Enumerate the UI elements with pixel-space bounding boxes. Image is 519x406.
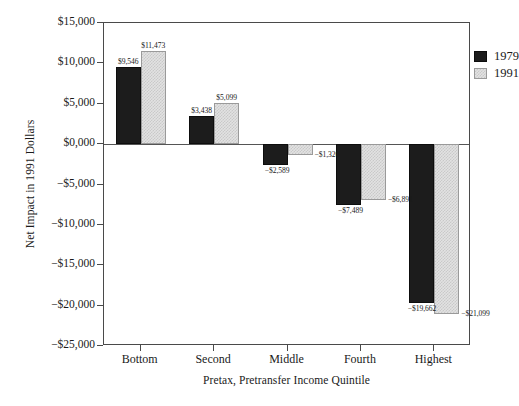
- y-tick-label: −$5,000: [0, 177, 95, 189]
- y-tick-label: −$15,000: [0, 257, 95, 269]
- bar-second-1979: [189, 116, 214, 144]
- bar-bottom-1979: [116, 67, 141, 144]
- y-tick-mark: [97, 345, 103, 346]
- value-label-middle-1979: −$2,589: [230, 166, 290, 175]
- x-tick-mark: [433, 345, 434, 351]
- bar-fourth-1991: [361, 144, 386, 200]
- value-label-bottom-1979: $9,546: [98, 57, 158, 66]
- legend-swatch-1979: [474, 51, 487, 62]
- x-tick-label-highest: Highest: [388, 352, 478, 367]
- legend-label-1991: 1991: [494, 67, 519, 80]
- plot-area: $9,546$11,473$3,438$5,099−$2,589−$1,320−…: [103, 22, 470, 345]
- x-tick-mark: [140, 345, 141, 351]
- x-tick-mark: [360, 345, 361, 351]
- value-label-fourth-1991: −$6,891: [388, 195, 413, 204]
- legend-item-1979: 1979: [474, 49, 519, 64]
- value-label-second-1991: $5,099: [197, 93, 257, 102]
- value-label-middle-1991: −$1,320: [315, 150, 340, 159]
- y-tick-label: −$20,000: [0, 298, 95, 310]
- y-tick-label: $10,000: [0, 55, 95, 67]
- value-label-highest-1979: −$19,662: [376, 304, 436, 313]
- legend-swatch-1991: [474, 68, 487, 79]
- value-label-fourth-1979: −$7,489: [303, 206, 363, 215]
- value-label-bottom-1991: $11,473: [123, 41, 183, 50]
- x-tick-mark: [287, 345, 288, 351]
- bar-fourth-1979: [336, 144, 361, 204]
- value-label-second-1979: $3,438: [172, 106, 232, 115]
- x-tick-mark: [213, 345, 214, 351]
- value-label-highest-1991: −$21,099: [461, 309, 490, 318]
- bar-highest-1979: [409, 144, 434, 303]
- bar-middle-1991: [288, 144, 313, 155]
- y-tick-label: −$10,000: [0, 217, 95, 229]
- legend: 1979 1991: [474, 49, 519, 83]
- y-tick-label: $0,000: [0, 136, 95, 148]
- legend-label-1979: 1979: [494, 50, 519, 63]
- y-tick-label: −$25,000: [0, 338, 95, 350]
- bar-middle-1979: [263, 144, 288, 165]
- bar-highest-1991: [434, 144, 459, 314]
- legend-item-1991: 1991: [474, 66, 519, 81]
- y-tick-label: $5,000: [0, 96, 95, 108]
- y-tick-label: $15,000: [0, 15, 95, 27]
- x-axis-title: Pretax, Pretransfer Income Quintile: [103, 374, 470, 386]
